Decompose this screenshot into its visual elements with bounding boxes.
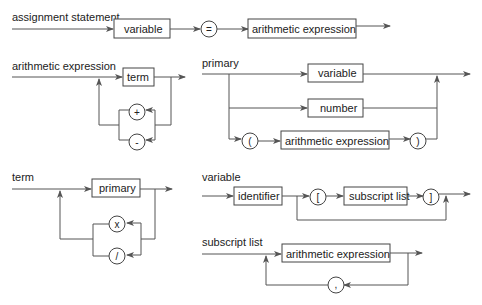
svg-text:term: term xyxy=(127,71,149,83)
diagram-title: term xyxy=(12,171,34,183)
diagram-assignment-statement: assignment statement variable = arithmet… xyxy=(12,11,390,38)
node-times: x xyxy=(109,216,125,232)
svg-text:primary: primary xyxy=(99,182,136,194)
node-identifier: identifier xyxy=(234,187,282,205)
svg-text:/: / xyxy=(116,251,119,262)
svg-text:): ) xyxy=(416,136,419,147)
node-variable: variable xyxy=(114,19,170,38)
diagram-title: arithmetic expression xyxy=(12,60,116,72)
svg-text:number: number xyxy=(320,102,358,114)
svg-text:-: - xyxy=(135,137,138,148)
svg-text:=: = xyxy=(206,24,212,35)
diagram-arithmetic-expression: arithmetic expression term + - xyxy=(12,60,185,150)
diagram-term: term primary x / xyxy=(12,171,172,264)
diagram-primary: primary variable number ( arithmetic exp… xyxy=(202,57,470,149)
node-number: number xyxy=(308,99,363,117)
node-divide: / xyxy=(109,248,125,264)
node-arithmetic-expression: arithmetic expression xyxy=(248,19,356,38)
node-arithmetic-expression: arithmetic expression xyxy=(281,131,389,149)
node-subscript-list: subscript list xyxy=(344,187,410,205)
node-lbracket: [ xyxy=(310,189,326,205)
node-term: term xyxy=(123,68,154,86)
svg-text:variable: variable xyxy=(318,67,357,79)
svg-text:arithmetic expression: arithmetic expression xyxy=(285,135,389,147)
svg-text:,: , xyxy=(335,279,338,290)
svg-text:]: ] xyxy=(430,192,433,203)
diagram-title: variable xyxy=(202,171,241,183)
node-minus: - xyxy=(129,134,145,150)
diagram-title: primary xyxy=(202,57,239,69)
node-plus: + xyxy=(129,104,145,120)
node-primary: primary xyxy=(92,179,140,197)
diagram-title: assignment statement xyxy=(12,11,120,23)
diagram-variable: variable identifier [ subscript list ] xyxy=(202,171,470,220)
node-variable: variable xyxy=(308,64,363,82)
node-equals: = xyxy=(201,21,217,37)
diagram-subscript-list: subscript list arithmetic expression , xyxy=(202,236,422,293)
svg-text:x: x xyxy=(115,219,120,230)
svg-text:identifier: identifier xyxy=(238,190,280,202)
node-rbracket: ] xyxy=(423,189,439,205)
node-lparen: ( xyxy=(242,133,258,149)
syntax-diagrams: assignment statement variable = arithmet… xyxy=(0,0,482,305)
node-comma: , xyxy=(328,277,344,293)
svg-text:arithmetic expression: arithmetic expression xyxy=(252,23,356,35)
svg-text:subscript list: subscript list xyxy=(349,190,410,202)
node-rparen: ) xyxy=(410,133,426,149)
svg-text:arithmetic expression: arithmetic expression xyxy=(286,248,390,260)
svg-text:variable: variable xyxy=(124,23,163,35)
svg-text:+: + xyxy=(134,107,140,118)
svg-text:[: [ xyxy=(317,192,320,203)
diagram-title: subscript list xyxy=(202,236,263,248)
node-arithmetic-expression: arithmetic expression xyxy=(282,244,390,262)
